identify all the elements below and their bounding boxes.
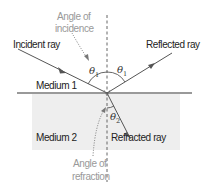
incident-ray-arrow-icon [58,67,66,74]
medium-1-label: Medium 1 [36,80,78,91]
svg-text:2: 2 [116,117,120,125]
theta-1-reflection: θ 1 [117,64,127,78]
angle-of-incidence-label-line2: incidence [55,23,94,34]
incidence-pointer-dotted [72,33,87,58]
medium-2-label: Medium 2 [36,132,78,143]
reflected-ray-arrow-icon [148,63,155,69]
angle-of-refraction-label-line2: refraction [72,171,110,182]
refracted-ray-label: Refracted ray [111,132,166,143]
angle-of-incidence-label-line1: Angle of [57,11,91,22]
theta-1-incidence: θ 1 [89,65,99,79]
svg-text:1: 1 [123,70,127,78]
optics-diagram: Angle of incidence Incident ray Reflecte… [0,0,203,194]
angle-of-refraction-label-line1: Angle of [73,158,107,169]
incident-ray-label: Incident ray [13,39,60,50]
svg-text:1: 1 [95,71,99,79]
reflected-ray-label: Reflected ray [146,39,200,50]
